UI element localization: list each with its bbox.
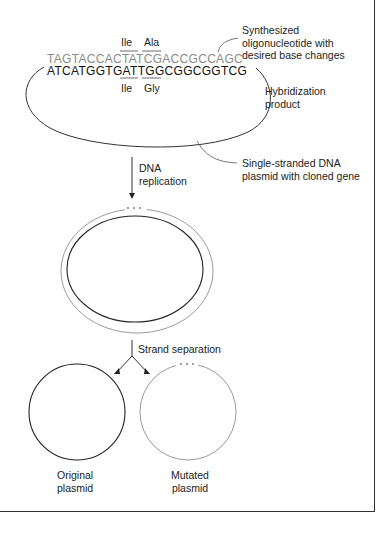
strand-separation-label: Strand separation — [138, 343, 221, 356]
replication-label: DNA replication — [139, 162, 187, 187]
codon-label-gly: Gly — [144, 82, 160, 94]
ss-plasmid-ellipse — [26, 67, 270, 147]
inner-original-strand — [67, 216, 203, 322]
codon-label-ala: Ala — [144, 36, 159, 48]
ss-plasmid-label-line: plasmid with cloned gene — [242, 170, 360, 183]
original-label-line: Original — [57, 469, 93, 482]
oligo-label: Synthesized oligonucleotide with desired… — [242, 24, 345, 62]
mutated-plasmid-label: Mutated plasmid — [171, 469, 209, 494]
mutated-label-line: plasmid — [171, 482, 209, 495]
hybrid-label: Hybridization product — [265, 85, 326, 110]
hybrid-label-line: product — [265, 98, 326, 111]
outer-new-strand — [61, 209, 213, 333]
oligo-label-line: desired base changes — [242, 49, 345, 62]
ss-plasmid-label: Single-stranded DNA plasmid with cloned … — [242, 157, 360, 182]
template-sequence: ATCATGGTGATTGGCGGCGGTCG — [47, 65, 247, 78]
hybrid-label-line: Hybridization — [265, 85, 326, 98]
replication-label-line: DNA — [139, 162, 187, 175]
codon-label-ile-bottom: Ile — [121, 82, 132, 94]
mutated-plasmid-circle — [140, 364, 236, 460]
oligo-callout-line — [218, 38, 238, 52]
original-plasmid-circle — [29, 364, 125, 460]
replication-arrow-head — [129, 193, 135, 199]
oligo-label-line: oligonucleotide with — [242, 37, 345, 50]
original-label-line: plasmid — [57, 482, 93, 495]
codon-label-ile-top: Ile — [121, 36, 132, 48]
replication-label-line: replication — [139, 175, 187, 188]
oligo-label-line: Synthesized — [242, 24, 345, 37]
ss-plasmid-label-line: Single-stranded DNA — [242, 157, 360, 170]
diagram-graphics — [0, 0, 389, 536]
mutated-label-line: Mutated — [171, 469, 209, 482]
original-plasmid-label: Original plasmid — [57, 469, 93, 494]
